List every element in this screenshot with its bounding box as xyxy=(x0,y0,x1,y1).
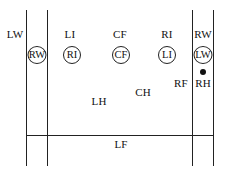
circled-player-rw-text: RW xyxy=(29,50,45,60)
label-rf: RF xyxy=(174,78,188,89)
left-inner-line xyxy=(47,10,48,166)
circled-player-cf-text: CF xyxy=(115,50,128,60)
circled-player-li-text: LI xyxy=(162,50,172,60)
label-lh: LH xyxy=(91,96,106,107)
circled-player-rw: RW xyxy=(28,46,47,64)
label-lf: LF xyxy=(114,139,127,150)
label-li: LI xyxy=(65,29,76,40)
right-outer-line xyxy=(213,10,214,166)
label-rw: RW xyxy=(194,29,212,40)
label-ri: RI xyxy=(161,29,172,40)
label-ch: CH xyxy=(135,87,151,98)
ball-dot-icon xyxy=(200,69,206,75)
label-rh: RH xyxy=(195,78,211,89)
circled-player-ri: RI xyxy=(63,46,81,64)
left-outer-line xyxy=(26,10,27,166)
label-lw: LW xyxy=(7,29,24,40)
right-inner-line xyxy=(192,10,193,166)
circled-player-li: LI xyxy=(158,46,176,64)
circled-player-lw: LW xyxy=(194,46,213,64)
baseline xyxy=(26,135,214,136)
label-cf-top: CF xyxy=(113,29,127,40)
circled-player-ri-text: RI xyxy=(67,50,78,60)
circled-player-cf: CF xyxy=(112,46,130,64)
circled-player-lw-text: LW xyxy=(195,50,211,60)
